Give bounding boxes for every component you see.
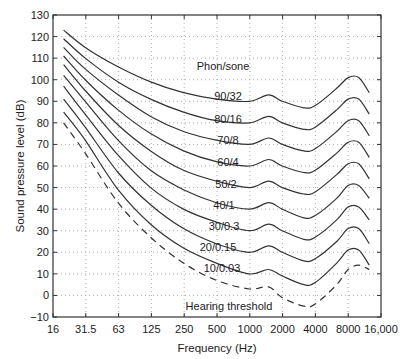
curve-label: 60/4 (217, 156, 238, 168)
x-tick-label: 125 (142, 323, 160, 335)
x-tick-label: 250 (175, 323, 193, 335)
y-tick-label: 80 (37, 117, 49, 129)
y-tick-label: 20 (37, 246, 49, 258)
y-tick-label: −10 (30, 311, 49, 323)
curve-label: 20/0.15 (200, 241, 237, 253)
legend-title: Phon/sone (197, 60, 250, 72)
curve-label: 10/0.03 (204, 262, 241, 274)
y-tick-label: 130 (31, 9, 49, 21)
x-tick-label: 63 (112, 323, 124, 335)
curve-label: 70/8 (217, 134, 238, 146)
y-axis-label: Sound pressure level (dB) (14, 99, 26, 232)
y-tick-label: 60 (37, 160, 49, 172)
curve-label: 50/2 (215, 178, 236, 190)
y-tick-label: 110 (31, 52, 49, 64)
y-tick-label: 120 (31, 31, 49, 43)
y-tick-label: 10 (37, 268, 49, 280)
curve-label: 40/1 (213, 199, 234, 211)
x-tick-label: 8000 (336, 323, 360, 335)
x-tick-label: 2000 (270, 323, 294, 335)
curve-label: Hearing threshold (186, 300, 273, 312)
equal-loudness-chart: −100102030405060708090100110120130 1631.… (0, 0, 409, 359)
x-tick-label: 16,000 (364, 323, 398, 335)
x-tick-label: 1000 (238, 323, 262, 335)
y-tick-label: 40 (37, 203, 49, 215)
y-tick-label: 100 (31, 74, 49, 86)
x-tick-label: 4000 (303, 323, 327, 335)
curve-label: 80/16 (214, 113, 242, 125)
y-tick-label: 70 (37, 138, 49, 150)
x-axis-label: Frequency (Hz) (177, 342, 256, 354)
curve-label: 90/32 (214, 90, 242, 102)
x-tick-label: 16 (47, 323, 59, 335)
y-tick-label: 30 (37, 225, 49, 237)
y-tick-label: 50 (37, 182, 49, 194)
x-tick-label: 31.5 (75, 323, 96, 335)
hearing-threshold-curve (64, 123, 370, 307)
curve-label: 30/0.3 (209, 220, 240, 232)
y-tick-label: 90 (37, 95, 49, 107)
x-tick-label: 500 (208, 323, 226, 335)
y-tick-label: 0 (43, 289, 49, 301)
